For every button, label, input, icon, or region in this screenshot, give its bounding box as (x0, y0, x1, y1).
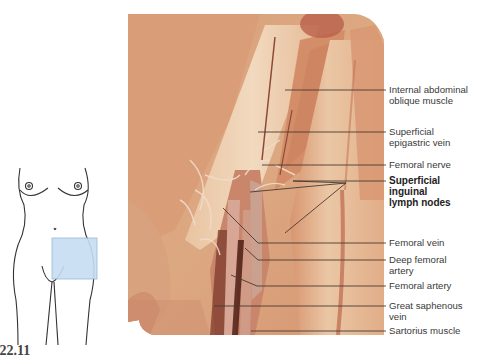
label-femoral-vein: Femoral vein (389, 237, 444, 248)
label-superficial-epigastric-vein: Superficial epigastric vein (389, 126, 450, 148)
label-femoral-nerve: Femoral nerve (389, 159, 451, 170)
orientation-body-diagram (0, 150, 130, 350)
highlighted-region (52, 238, 97, 279)
figure-number: .22.11 (0, 343, 30, 356)
label-femoral-artery: Femoral artery (389, 280, 451, 291)
label-great-saphenous-vein: Great saphenous vein (389, 300, 463, 322)
label-deep-femoral-artery: Deep femoral artery (389, 254, 447, 276)
label-sartorius-muscle: Sartorius muscle (389, 325, 460, 336)
label-internal-abdominal-oblique: Internal abdominal oblique muscle (389, 84, 468, 106)
anatomy-figure: Internal abdominal oblique muscle Superf… (0, 0, 493, 356)
label-superficial-inguinal-lymph-nodes: Superficial inguinal lymph nodes (389, 175, 451, 208)
